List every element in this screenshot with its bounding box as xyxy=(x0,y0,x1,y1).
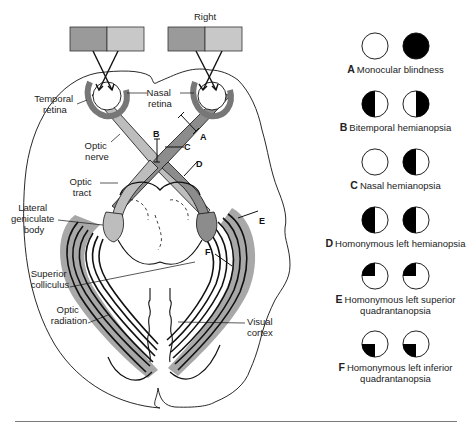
legend-letter: E xyxy=(336,293,343,305)
legend-letter: D xyxy=(325,237,333,249)
left-eye-field-icon xyxy=(361,32,389,60)
label-nasal-retina: Nasal retina xyxy=(147,87,174,109)
legend-text: Homonymous left hemianopsia xyxy=(335,238,465,249)
legend-letter: A xyxy=(347,63,355,75)
legend-text: Bitemporal hemianopsia xyxy=(349,122,451,133)
left-eye-field-icon xyxy=(361,262,389,290)
label-superior-colliculus: Superior colliculus xyxy=(31,268,70,290)
label-visual-cortex: Visual cortex xyxy=(247,316,275,338)
bottom-divider xyxy=(15,421,457,422)
legend-letter: C xyxy=(350,179,358,191)
label-optic-nerve: Optic nerve xyxy=(85,140,110,162)
legend-letter: B xyxy=(340,121,348,133)
right-visual-field xyxy=(168,27,242,51)
left-visual-field xyxy=(70,27,144,51)
left-eye-field-icon xyxy=(361,90,389,118)
legend-text-line-2: quadrantanopsia xyxy=(360,305,431,316)
legend-item-e: EHomonymous left superiorquadrantanopsia xyxy=(320,262,471,316)
label-lateral-geniculate-body: Lateral geniculate body xyxy=(11,202,57,235)
left-eye-field-icon xyxy=(361,148,389,176)
marker-a: A xyxy=(200,132,207,142)
right-eye-field-icon xyxy=(402,90,430,118)
marker-f: F xyxy=(205,247,211,257)
marker-c: C xyxy=(184,142,191,152)
legend-text: Nasal hemianopsia xyxy=(360,180,441,191)
right-label: Right xyxy=(194,11,217,22)
right-eye-field-icon xyxy=(402,148,430,176)
marker-b: B xyxy=(153,129,160,139)
legend-text-line-2: quadrantanopsia xyxy=(360,373,431,384)
marker-e: E xyxy=(259,216,265,226)
legend-letter: F xyxy=(338,361,344,373)
legend-item-d: DHomonymous left hemianopsia xyxy=(320,206,471,249)
legend-item-f: FHomonymous left inferiorquadrantanopsia xyxy=(320,330,471,384)
legend-text: Monocular blindness xyxy=(357,64,444,75)
label-temporal-retina: Temporal retina xyxy=(34,93,76,115)
legend-item-c: CNasal hemianopsia xyxy=(320,148,471,191)
right-eye-field-icon xyxy=(402,330,430,358)
legend-item-a: AMonocular blindness xyxy=(320,32,471,75)
legend-item-b: BBitemporal hemianopsia xyxy=(320,90,471,133)
left-eye-field-icon xyxy=(361,330,389,358)
marker-d: D xyxy=(196,159,203,169)
right-eye-field-icon xyxy=(402,206,430,234)
legend-text: Homonymous left inferior xyxy=(347,362,453,373)
right-eye-field-icon xyxy=(402,32,430,60)
left-eye-field-icon xyxy=(361,206,389,234)
label-optic-tract: Optic tract xyxy=(70,176,95,198)
visual-field-defect-legend: AMonocular blindness BBitemporal hemiano… xyxy=(320,0,471,433)
legend-text: Homonymous left superior xyxy=(345,294,456,305)
right-eye-field-icon xyxy=(402,262,430,290)
